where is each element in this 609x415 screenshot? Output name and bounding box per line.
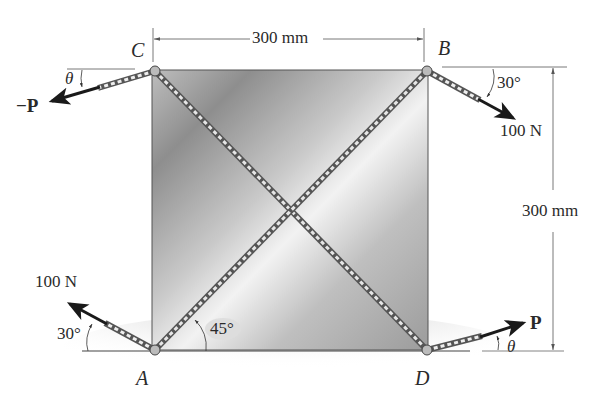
- angle-theta-D-label: θ: [507, 338, 515, 355]
- point-label-C: C: [131, 40, 144, 60]
- dimension-right-label: 300 mm: [522, 202, 578, 219]
- force-arrow-minus-P: [52, 87, 100, 101]
- angle-theta-C-label: θ: [65, 70, 73, 87]
- plate-diagram: C B A D 300 mm 300 mm θ −P 30° 100 N 100…: [0, 0, 609, 415]
- force-minus-P-label: −P: [16, 96, 38, 115]
- force-arrow-B-100N: [478, 99, 513, 118]
- force-arrow-P: [480, 323, 523, 337]
- angle-30-A-label: 30°: [57, 325, 81, 342]
- force-P-label: P: [530, 313, 542, 332]
- pin-A: [150, 345, 160, 355]
- pin-B: [422, 66, 432, 76]
- angle-30-B-label: 30°: [497, 74, 521, 91]
- cable-B: [427, 71, 480, 100]
- cable-C: [98, 71, 155, 88]
- force-arrow-A-100N: [70, 304, 107, 324]
- force-B-100N-label: 100 N: [500, 122, 542, 139]
- angle-arc-30-B: [487, 69, 494, 97]
- force-A-100N-label: 100 N: [35, 273, 77, 290]
- diagram-canvas: [0, 0, 609, 415]
- angle-45-label: 45°: [210, 320, 234, 337]
- pin-C: [150, 66, 160, 76]
- point-label-A: A: [136, 368, 148, 388]
- pin-D: [422, 345, 432, 355]
- angle-arc-theta-C: [81, 70, 82, 87]
- point-label-D: D: [415, 368, 429, 388]
- point-label-B: B: [438, 38, 450, 58]
- dimension-top-label: 300 mm: [252, 29, 308, 46]
